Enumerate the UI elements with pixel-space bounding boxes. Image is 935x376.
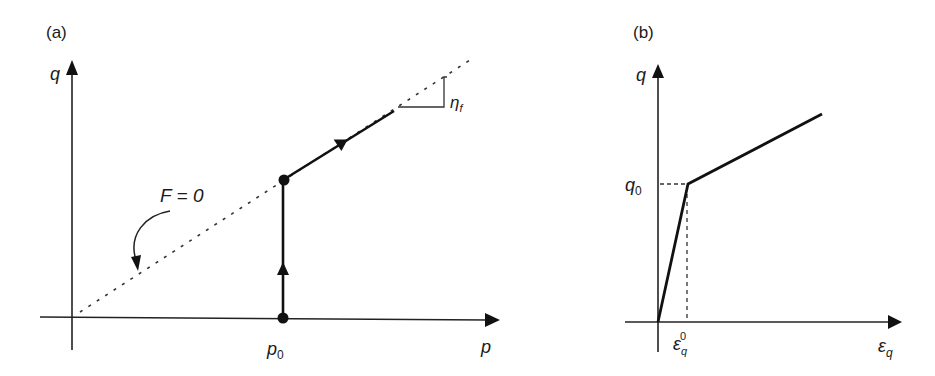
y-axis-label: q	[636, 65, 646, 85]
p0-point	[278, 313, 289, 324]
yield-pointer-arrow-icon	[131, 255, 141, 271]
yield-line	[80, 60, 470, 312]
x-axis-label: εq	[878, 336, 893, 360]
x-axis-arrow-icon	[888, 315, 902, 329]
path-arrow-icon	[334, 139, 349, 152]
x-axis	[40, 317, 488, 320]
p0-label: p0	[266, 339, 284, 362]
x-axis-arrow-icon	[485, 313, 500, 327]
up-arrow-icon	[277, 262, 289, 275]
slope-triangle	[398, 77, 447, 107]
panel-b-label: (b)	[633, 23, 654, 42]
response-curve	[658, 114, 822, 322]
panel-a-label: (a)	[46, 23, 67, 42]
y-axis-arrow-icon	[66, 60, 78, 75]
figure-canvas: (a) q p p0 ηf F = 0 (b) q	[0, 0, 935, 376]
yield-label: F = 0	[160, 185, 204, 206]
panel-a: (a) q p p0 ηf F = 0	[40, 23, 500, 362]
y-axis-label: q	[50, 64, 60, 84]
panel-b: (b) q εq q0 εq0	[625, 23, 902, 360]
yield-point	[279, 175, 290, 186]
q0-label: q0	[625, 175, 642, 198]
yield-pointer	[134, 211, 170, 260]
x-axis-label: p	[480, 337, 491, 357]
y-axis-arrow-icon	[652, 64, 664, 78]
eps0-label: εq0	[673, 330, 688, 357]
slope-label: ηf	[450, 93, 463, 114]
